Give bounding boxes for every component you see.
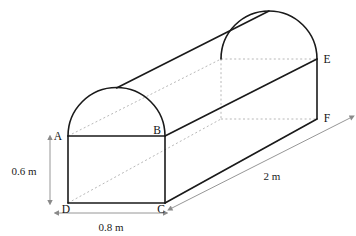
vertex-label-f: F [324, 112, 330, 124]
edge-ridge-top [117, 11, 270, 88]
vertex-label-d: D [62, 203, 70, 215]
dimension-label-height: 0.6 m [11, 165, 37, 177]
hidden-edge-d-to-back [68, 119, 221, 203]
dimension-label-width: 0.8 m [98, 221, 124, 233]
vertex-label-a: A [54, 130, 63, 142]
dimension-label-length: 2 m [264, 170, 281, 182]
dimension-lines-group [50, 118, 350, 213]
geometry-diagram: A B C D E F 0.6 m 0.8 m 2 m [0, 0, 356, 236]
edge-back-arch [221, 11, 317, 59]
vertex-label-c: C [157, 203, 165, 215]
hidden-edge-a-to-back [68, 59, 221, 136]
figure-svg: A B C D E F 0.6 m 0.8 m 2 m [0, 0, 356, 236]
vertex-label-b: B [153, 124, 161, 136]
vertex-label-e: E [323, 53, 330, 65]
edge-b-to-e-visible [165, 59, 317, 136]
edge-c-to-f-visible [165, 119, 317, 203]
dimension-line-length [172, 118, 350, 208]
